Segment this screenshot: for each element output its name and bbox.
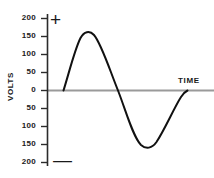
y-axis-tick-marks xyxy=(41,19,47,163)
chart-plot-area xyxy=(0,0,214,178)
chart-container: 200 150 100 50 0 50 100 150 200 VOLTS TI… xyxy=(0,0,214,178)
